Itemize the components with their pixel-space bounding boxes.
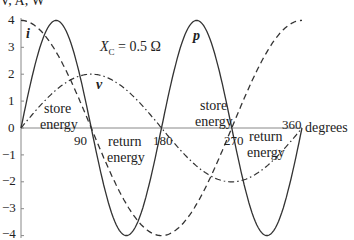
reactance-symbol: X	[100, 39, 109, 54]
y-tick-1: 1	[8, 94, 15, 107]
x-tick-180: 180	[153, 134, 173, 147]
series-label-v: v	[96, 78, 102, 92]
y-tick-3: 3	[8, 40, 15, 53]
reactance-annotation: XC = 0.5 Ω	[100, 40, 161, 57]
y-tick-0: 0	[8, 121, 15, 134]
region-3-store: store	[200, 99, 227, 113]
series-label-i: i	[26, 27, 30, 41]
x-tick-270: 270	[224, 134, 244, 147]
y-tick-4: 4	[8, 13, 15, 26]
region-2-energy: energy	[107, 151, 145, 165]
region-1-store: store	[44, 102, 71, 116]
y-tick-m3: −3	[2, 201, 16, 214]
y-tick-m1: −1	[2, 148, 16, 161]
reactance-value: = 0.5 Ω	[115, 39, 161, 54]
x-axis-label: degrees	[305, 121, 348, 135]
region-4-energy: energy	[247, 146, 285, 160]
region-1-energy: energy	[40, 118, 78, 132]
x-tick-360: 360	[282, 118, 302, 131]
series-label-p: p	[193, 29, 200, 43]
x-tick-90: 90	[74, 134, 87, 147]
y-tick-2: 2	[8, 67, 15, 80]
region-4-return: return	[249, 130, 282, 144]
y-tick-m2: −2	[2, 174, 16, 187]
region-3-energy: energy	[195, 115, 233, 129]
y-tick-m4: −4	[2, 227, 16, 240]
region-2-return: return	[108, 135, 141, 149]
y-axis-label: V, A, W	[0, 0, 45, 8]
